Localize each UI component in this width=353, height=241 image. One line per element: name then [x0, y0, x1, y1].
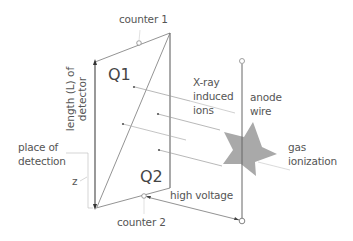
- length-arrow-bottom-head: [93, 204, 97, 210]
- gas-label-line1: gas: [288, 141, 306, 153]
- anode-bottom-terminal: [239, 218, 245, 224]
- detector-top-edge: [95, 33, 170, 62]
- q1-label: Q1: [108, 66, 131, 84]
- detector-diagram: counter 1 Q1 length (L) of detector X-ra…: [0, 0, 353, 241]
- length-label-line2: detector: [76, 69, 88, 129]
- counter2-terminal: [142, 194, 147, 199]
- length-arrow-top-head: [93, 59, 97, 65]
- diagram-graphics: [0, 0, 353, 241]
- place-of-detection-leader: [66, 153, 93, 208]
- anode-label-line1: anode: [250, 91, 282, 103]
- z-label: z: [72, 175, 77, 187]
- xray-label-line1: X-ray: [193, 76, 219, 88]
- counter1-label: counter 1: [119, 13, 168, 25]
- gas-label-line2: ionization: [288, 155, 337, 167]
- length-label-line1: length (L) of: [64, 63, 76, 135]
- q2-label: Q2: [140, 168, 163, 186]
- place-label-line1: place of: [18, 141, 58, 153]
- counter1-terminal: [137, 41, 142, 46]
- high-voltage-arrow-left-head: [146, 196, 151, 199]
- counter2-label: counter 2: [117, 216, 166, 228]
- anode-top-terminal: [240, 59, 245, 64]
- anode-label-line2: wire: [250, 105, 271, 117]
- xray-label-line3: ions: [193, 104, 214, 116]
- high-voltage-arrow-right-head: [234, 217, 239, 220]
- detector-bottom-edge: [96, 188, 170, 208]
- z-leader: [80, 177, 87, 181]
- high-voltage-label: high voltage: [170, 189, 233, 201]
- gas-ionization-star-icon: [223, 122, 277, 176]
- xray-label-line2: induced: [193, 90, 233, 102]
- place-label-line2: detection: [18, 155, 66, 167]
- counter1-leader: [139, 30, 140, 41]
